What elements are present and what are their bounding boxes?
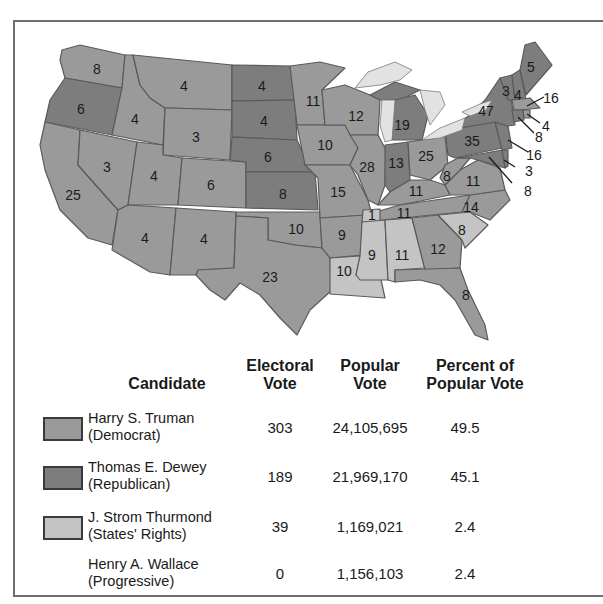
header-popular: Popular Vote	[330, 357, 410, 393]
electoral-vote: 189	[250, 468, 310, 485]
label-in: 13	[388, 155, 404, 171]
label-ia: 10	[317, 137, 333, 153]
candidate-cell: Henry A. Wallace (Progressive)	[88, 556, 199, 590]
label-ar: 9	[338, 227, 346, 243]
label-mt: 4	[180, 78, 188, 94]
label-ga: 12	[430, 241, 446, 257]
label-ny: 47	[478, 103, 494, 119]
label-nm: 4	[200, 231, 208, 247]
candidate-cell: Harry S. Truman (Democrat)	[88, 410, 194, 444]
electoral-vote: 303	[250, 419, 310, 436]
state-me	[520, 42, 552, 95]
label-tn: 11	[397, 205, 412, 221]
percent-vote: 45.1	[435, 468, 495, 485]
table-row-thurmond: J. Strom Thurmond (States' Rights) 39 1,…	[0, 505, 583, 555]
label-wv: 8	[443, 168, 451, 184]
label-ca: 25	[65, 187, 81, 203]
candidate-name: Henry A. Wallace	[88, 556, 199, 573]
header-percent: Percent of Popular Vote	[415, 357, 535, 393]
candidate-name: Harry S. Truman	[88, 410, 194, 427]
popular-vote: 1,169,021	[320, 518, 420, 535]
label-ky: 11	[409, 183, 424, 199]
table-row-wallace: Henry A. Wallace (Progressive) 0 1,156,1…	[0, 552, 583, 602]
label-tn-split: 1	[368, 207, 376, 223]
percent-vote: 49.5	[435, 419, 495, 436]
state-ct	[512, 110, 524, 122]
label-wy: 3	[192, 129, 200, 145]
label-tx: 23	[262, 269, 278, 285]
label-vt: 3	[502, 83, 510, 99]
popular-vote: 21,969,170	[320, 468, 420, 485]
label-la: 10	[336, 263, 352, 279]
label-va: 11	[466, 173, 481, 189]
label-me: 5	[527, 59, 535, 75]
table-row-dewey: Thomas E. Dewey (Republican) 189 21,969,…	[0, 455, 583, 505]
candidate-party: (Progressive)	[88, 573, 199, 590]
header-popular-line1: Popular	[330, 357, 410, 375]
header-percent-line2: Popular Vote	[415, 375, 535, 393]
popular-vote: 24,105,695	[320, 419, 420, 436]
percent-vote: 2.4	[435, 518, 495, 535]
label-nh: 4	[514, 87, 522, 103]
header-electoral-line2: Vote	[240, 375, 320, 393]
header-percent-line1: Percent of	[415, 357, 535, 375]
candidate-name: J. Strom Thurmond	[88, 509, 212, 526]
label-mo: 15	[330, 184, 346, 200]
label-oh: 25	[418, 148, 434, 164]
candidate-cell: J. Strom Thurmond (States' Rights)	[88, 509, 212, 543]
percent-vote: 2.4	[435, 565, 495, 582]
label-al: 11	[395, 247, 410, 263]
label-nv: 3	[103, 159, 111, 175]
header-electoral: Electoral Vote	[240, 357, 320, 393]
label-ma: 16	[543, 90, 559, 106]
label-il: 28	[359, 159, 375, 175]
label-nc: 14	[463, 199, 479, 215]
electoral-vote: 0	[250, 565, 310, 582]
label-nj: 16	[526, 147, 542, 163]
header-electoral-line1: Electoral	[240, 357, 320, 375]
label-ct: 8	[535, 129, 543, 145]
label-pa: 35	[464, 133, 480, 149]
label-co: 6	[207, 177, 215, 193]
candidate-party: (States' Rights)	[88, 526, 212, 543]
label-ok: 10	[288, 221, 304, 237]
header-popular-line2: Vote	[330, 375, 410, 393]
label-az: 4	[141, 230, 149, 246]
label-ut: 4	[150, 168, 158, 184]
candidate-party: (Republican)	[88, 476, 206, 493]
label-wi: 12	[348, 108, 364, 124]
candidate-name: Thomas E. Dewey	[88, 459, 206, 476]
label-ri: 4	[542, 118, 550, 134]
label-mi: 19	[394, 117, 410, 133]
us-electoral-map: 8 6 25 3 4 4 3 4 6 4 4 4 4 6 8 10 23 11 …	[0, 0, 583, 355]
states	[40, 42, 552, 340]
label-sd: 4	[260, 113, 268, 129]
legend-swatch-democrat	[43, 417, 83, 441]
label-de: 3	[525, 163, 533, 179]
label-id: 4	[131, 111, 139, 127]
label-ne: 6	[264, 149, 272, 165]
state-fl	[395, 268, 488, 340]
candidate-cell: Thomas E. Dewey (Republican)	[88, 459, 206, 493]
candidate-party: (Democrat)	[88, 427, 194, 444]
label-sc: 8	[458, 222, 466, 238]
legend-swatch-states-rights	[43, 516, 83, 540]
label-ms: 9	[368, 247, 376, 263]
label-or: 6	[77, 101, 85, 117]
popular-vote: 1,156,103	[320, 565, 420, 582]
label-nd: 4	[258, 78, 266, 94]
label-ks: 8	[279, 186, 287, 202]
table-row-truman: Harry S. Truman (Democrat) 303 24,105,69…	[0, 405, 583, 455]
label-wa: 8	[93, 61, 101, 77]
electoral-vote: 39	[250, 518, 310, 535]
label-fl: 8	[462, 287, 470, 303]
legend-swatch-republican	[43, 466, 83, 490]
header-candidate: Candidate	[112, 375, 222, 393]
label-md: 8	[524, 183, 532, 199]
label-mn: 11	[306, 93, 321, 109]
